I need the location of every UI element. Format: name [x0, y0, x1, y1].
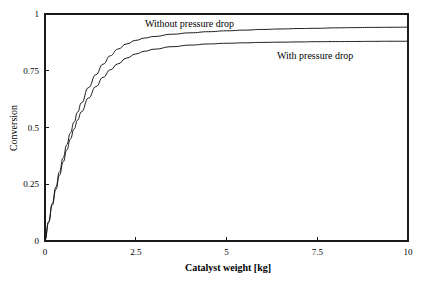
y-axis-tick-label: 1: [8, 9, 39, 19]
series-annotation-with-pressure-drop: With pressure drop: [277, 50, 353, 61]
plot-canvas: [0, 0, 427, 284]
x-axis-tick-label: 5: [224, 247, 229, 257]
plot-frame: [45, 14, 408, 241]
x-axis-tick-label: 7.5: [312, 247, 323, 257]
x-axis-tick-label: 0: [43, 247, 48, 257]
x-axis-tick-label: 10: [404, 247, 413, 257]
y-axis-tick-label: 0: [8, 236, 39, 246]
y-axis-tick-label: 0.25: [8, 179, 39, 189]
x-axis-tick-label: 2.5: [130, 247, 141, 257]
y-axis-tick-label: 0.75: [8, 66, 39, 76]
y-axis-tick-label: 0.5: [8, 123, 39, 133]
chart-figure: Catalyst weight [kg] Conversion Without …: [0, 0, 427, 284]
x-axis-title: Catalyst weight [kg]: [185, 262, 271, 273]
series-annotation-without-pressure-drop: Without pressure drop: [145, 18, 234, 29]
